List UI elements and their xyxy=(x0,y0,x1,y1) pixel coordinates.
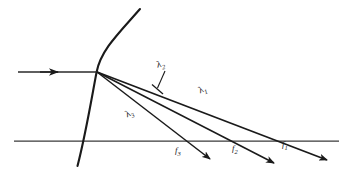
label-f2: f2 xyxy=(232,144,238,155)
f1-subscript: 1 xyxy=(285,144,288,151)
lambda2-tick-mark xyxy=(152,85,163,95)
label-f1: f1 xyxy=(282,140,288,151)
lambda2-leader-line xyxy=(158,71,166,88)
refracting-surface-curve xyxy=(78,9,141,166)
diagram-canvas xyxy=(0,0,339,174)
label-f3: f3 xyxy=(175,146,181,157)
refracted-ray-lambda2 xyxy=(97,72,274,163)
f2-subscript: 2 xyxy=(235,148,238,155)
optics-dispersion-figure: λ1 λ2 λ3 f1 f2 f3 xyxy=(0,0,339,174)
f3-subscript: 3 xyxy=(178,150,181,157)
